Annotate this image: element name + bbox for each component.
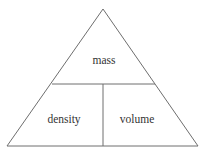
mass-label: mass [93,54,117,66]
volume-label: volume [120,113,155,125]
formula-triangle-diagram: mass density volume [0,0,201,158]
density-label: density [47,113,80,126]
